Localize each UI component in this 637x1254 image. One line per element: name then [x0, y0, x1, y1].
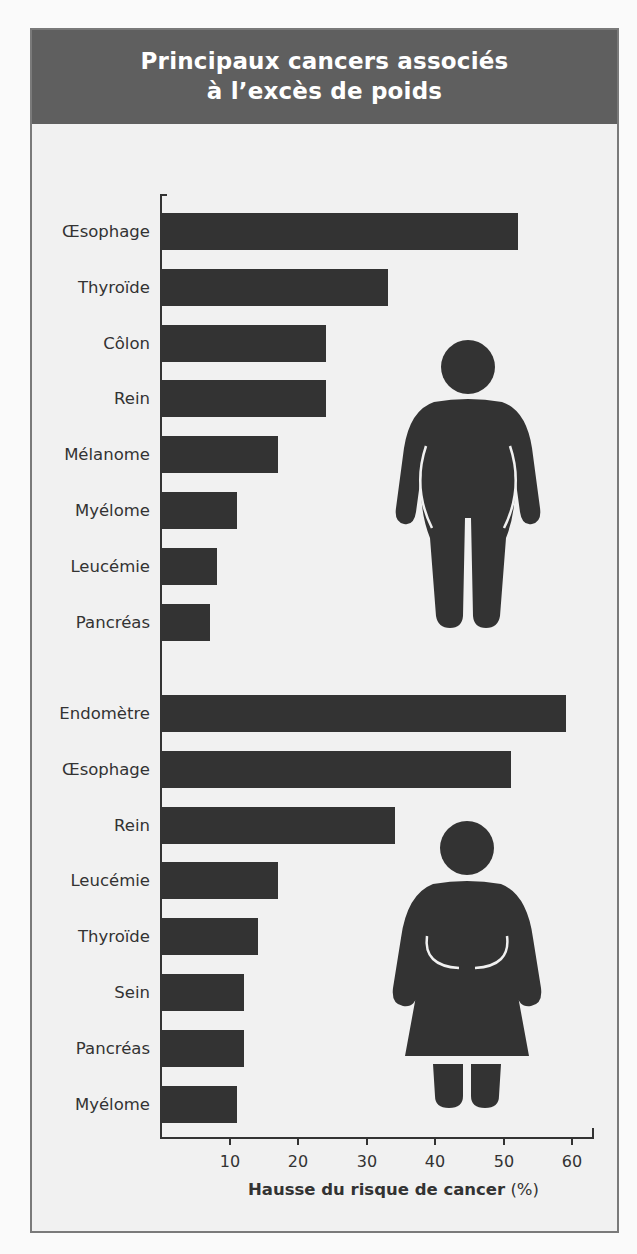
- chart-title: Principaux cancers associés à l’excès de…: [32, 30, 617, 124]
- chart-title-line-2: à l’excès de poids: [32, 76, 617, 106]
- chart-frame: Principaux cancers associés à l’excès de…: [30, 28, 619, 1233]
- chart-title-line-1: Principaux cancers associés: [32, 46, 617, 76]
